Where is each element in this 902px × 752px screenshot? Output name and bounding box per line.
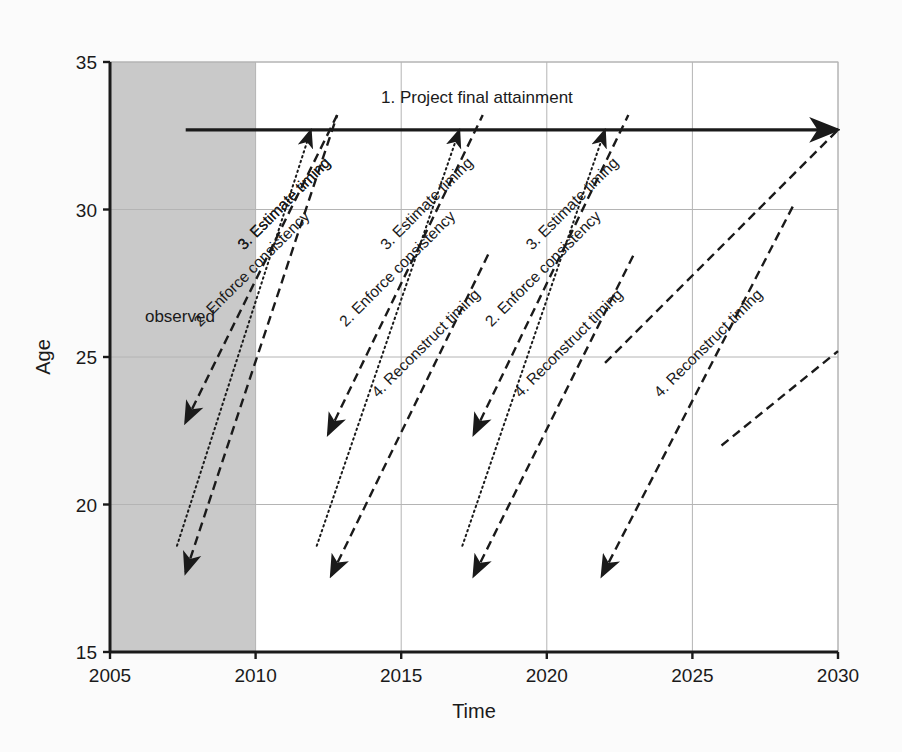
region-label-group: observed <box>145 307 215 326</box>
y-tick-label: 20 <box>76 495 97 516</box>
chart-canvas: 1. Project final attainment2. Enforce co… <box>0 0 902 752</box>
lexis-diagram-figure: 1. Project final attainment2. Enforce co… <box>0 0 902 752</box>
y-tick-label: 25 <box>76 347 97 368</box>
y-tick-label: 30 <box>76 200 97 221</box>
x-tick-label: 2030 <box>817 665 859 686</box>
x-tick-label: 2020 <box>526 665 568 686</box>
x-tick-label: 2010 <box>234 665 276 686</box>
x-tick-label: 2025 <box>671 665 713 686</box>
observed-region-label: observed <box>145 307 215 326</box>
y-tick-label: 15 <box>76 642 97 663</box>
x-axis-title: Time <box>452 700 496 722</box>
x-tick-label: 2005 <box>89 665 131 686</box>
y-axis-title: Age <box>32 339 54 375</box>
y-tick-label: 35 <box>76 52 97 73</box>
annotation-label-step1: 1. Project final attainment <box>381 88 573 107</box>
x-tick-label: 2015 <box>380 665 422 686</box>
